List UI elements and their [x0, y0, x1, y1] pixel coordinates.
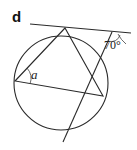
inscribed-triangle [15, 28, 103, 96]
angle-70-label: 70° [104, 38, 121, 52]
angle-a-label: a [31, 67, 38, 82]
geometry-figure: d a 70° [0, 0, 137, 150]
part-label: d [12, 8, 21, 25]
tangent-line [30, 24, 131, 33]
